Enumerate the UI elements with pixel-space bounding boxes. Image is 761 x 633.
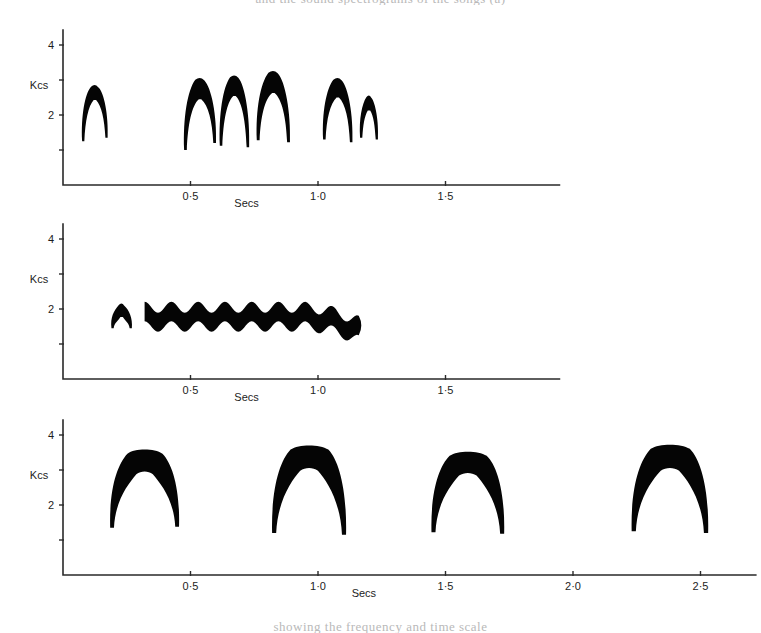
spectrogram-trace — [145, 302, 362, 341]
x-tick-label: 1·0 — [310, 580, 326, 592]
x-tick-label: 0·5 — [183, 580, 199, 592]
y-axis-unit-label: Kcs — [30, 79, 49, 91]
cut-off-caption-top: and the sound spectrograms of the songs … — [0, 0, 761, 5]
y-tick-label: 2 — [48, 303, 54, 315]
x-axis-unit-label: Secs — [352, 587, 377, 599]
spectrogram-panel-a: 24Kcs0·51·01·5Secs — [0, 28, 761, 223]
spectrogram-trace — [111, 304, 132, 329]
x-tick-label: 0·5 — [183, 384, 199, 396]
spectrogram-trace — [632, 445, 709, 533]
y-tick-label: 2 — [48, 499, 54, 511]
y-tick-label: 4 — [48, 233, 54, 245]
spectrogram-trace — [323, 78, 353, 142]
spectrogram-trace — [82, 85, 108, 141]
x-axis-unit-label: Secs — [234, 391, 259, 403]
x-tick-label: 2·5 — [693, 580, 709, 592]
x-tick-label: 1·0 — [310, 190, 326, 202]
cut-off-caption-bottom: showing the frequency and time scale — [0, 619, 761, 633]
x-tick-label: 1·5 — [438, 384, 454, 396]
x-tick-label: 1·5 — [438, 190, 454, 202]
y-tick-label: 2 — [48, 109, 54, 121]
spectrogram-trace — [110, 450, 179, 528]
x-tick-label: 1·5 — [438, 580, 454, 592]
spectrogram-trace — [431, 452, 504, 534]
y-axis-unit-label: Kcs — [30, 273, 49, 285]
y-axis-unit-label: Kcs — [30, 469, 49, 481]
y-tick-label: 4 — [48, 429, 54, 441]
x-tick-label: 0·5 — [183, 190, 199, 202]
y-tick-label: 4 — [48, 39, 54, 51]
x-tick-label: 2·0 — [565, 580, 581, 592]
spectrogram-panel-c: 24Kcs0·51·01·52·02·5Secs — [0, 418, 761, 613]
x-axis-unit-label: Secs — [234, 197, 259, 209]
spectrogram-trace — [257, 71, 290, 142]
spectrogram-trace — [272, 445, 346, 534]
spectrogram-trace — [360, 96, 378, 140]
spectrogram-panel-b: 24Kcs0·51·01·5Secs — [0, 222, 761, 417]
spectrogram-trace — [220, 76, 250, 148]
spectrogram-trace — [184, 78, 216, 150]
x-tick-label: 1·0 — [310, 384, 326, 396]
